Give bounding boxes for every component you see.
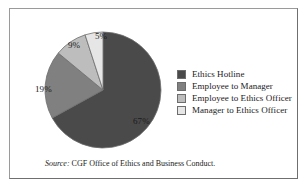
legend-swatch-icon <box>177 94 186 103</box>
pie-label-employee-to-manager: 19% <box>35 85 52 94</box>
legend-swatch-icon <box>177 106 186 115</box>
chart-legend: Ethics Hotline Employee to Manager Emplo… <box>177 68 305 116</box>
legend-item-ethics-hotline: Ethics Hotline <box>177 68 305 80</box>
pie-label-ethics-hotline: 67% <box>133 117 150 126</box>
legend-item-label: Ethics Hotline <box>192 70 244 79</box>
legend-item-employee-to-manager: Employee to Manager <box>177 80 305 92</box>
source-note-text: CGF Office of Ethics and Business Conduc… <box>72 159 216 168</box>
pie-chart <box>44 31 162 149</box>
legend-item-label: Manager to Ethics Officer <box>192 106 287 115</box>
legend-item-label: Employee to Manager <box>192 82 273 91</box>
pie-chart-svg <box>44 31 162 149</box>
source-note-prefix: Source: <box>45 159 70 168</box>
legend-swatch-icon <box>177 70 186 79</box>
figure-root: 67% 19% 9% 5% Ethics Hotline Employee to… <box>0 0 307 188</box>
figure-border-frame: 67% 19% 9% 5% Ethics Hotline Employee to… <box>9 8 298 179</box>
legend-item-employee-to-ethics-officer: Employee to Ethics Officer <box>177 92 305 104</box>
pie-label-employee-to-ethics-officer: 9% <box>68 41 80 50</box>
legend-item-manager-to-ethics-officer: Manager to Ethics Officer <box>177 104 305 116</box>
legend-swatch-icon <box>177 82 186 91</box>
pie-slice-group <box>45 32 161 148</box>
legend-item-label: Employee to Ethics Officer <box>192 94 292 103</box>
pie-label-manager-to-ethics-officer: 5% <box>95 32 107 41</box>
source-note: Source: CGF Office of Ethics and Busines… <box>45 160 215 168</box>
